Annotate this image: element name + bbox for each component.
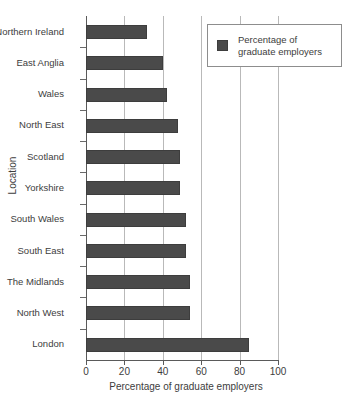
page-bleed-text xyxy=(0,395,354,403)
bar-row xyxy=(86,266,278,297)
category-label: South Wales xyxy=(0,213,64,224)
bar xyxy=(86,213,186,227)
bar xyxy=(86,306,190,320)
x-tick xyxy=(278,360,279,365)
x-tick-label: 20 xyxy=(104,366,144,377)
y-tick xyxy=(80,47,86,48)
bar xyxy=(86,338,249,352)
y-tick xyxy=(80,329,86,330)
y-tick xyxy=(80,110,86,111)
category-label: North West xyxy=(0,307,64,318)
bar-chart-figure: Location 020406080100Northern IrelandEas… xyxy=(0,0,354,403)
bar-row xyxy=(86,204,278,235)
category-label: Scotland xyxy=(0,151,64,162)
category-label: Northern Ireland xyxy=(0,26,64,37)
x-tick xyxy=(163,360,164,365)
x-axis-title: Percentage of graduate employers xyxy=(0,381,354,392)
legend-label: Percentage of graduate employers xyxy=(238,34,322,58)
bar-row xyxy=(86,141,278,172)
x-tick-label: 60 xyxy=(181,366,221,377)
y-tick xyxy=(80,141,86,142)
x-axis-title-text: Percentage of graduate employers xyxy=(109,381,262,392)
y-tick xyxy=(80,204,86,205)
x-tick xyxy=(201,360,202,365)
bar-row xyxy=(86,79,278,110)
bar xyxy=(86,88,167,102)
bar xyxy=(86,25,147,39)
legend-label-line1: Percentage of xyxy=(238,34,322,46)
x-tick xyxy=(124,360,125,365)
y-tick xyxy=(80,266,86,267)
bar xyxy=(86,275,190,289)
y-axis-title: Location xyxy=(7,136,18,216)
y-tick xyxy=(80,172,86,173)
bar xyxy=(86,244,186,258)
x-tick xyxy=(86,360,87,365)
gridline xyxy=(278,16,279,360)
y-tick xyxy=(80,235,86,236)
category-label: Wales xyxy=(0,88,64,99)
x-tick-label: 100 xyxy=(258,366,298,377)
category-label: Yorkshire xyxy=(0,182,64,193)
bar-row xyxy=(86,172,278,203)
bar-row xyxy=(86,329,278,360)
plot-area xyxy=(86,16,278,360)
y-tick xyxy=(80,79,86,80)
category-label: North East xyxy=(0,119,64,130)
category-label: East Anglia xyxy=(0,57,64,68)
legend-label-line2: graduate employers xyxy=(238,46,322,58)
bar-row xyxy=(86,235,278,266)
x-tick-label: 40 xyxy=(143,366,183,377)
x-tick xyxy=(240,360,241,365)
x-tick-label: 80 xyxy=(220,366,260,377)
legend-swatch-percentage-of-graduate-employers xyxy=(217,40,228,51)
x-axis-line xyxy=(86,360,279,361)
x-tick-label: 0 xyxy=(66,366,106,377)
bar-row xyxy=(86,110,278,141)
bar xyxy=(86,119,178,133)
category-label: The Midlands xyxy=(0,276,64,287)
legend: Percentage of graduate employers xyxy=(207,24,342,67)
category-label: London xyxy=(0,338,64,349)
bar xyxy=(86,181,180,195)
category-label: South East xyxy=(0,245,64,256)
bar xyxy=(86,150,180,164)
bar xyxy=(86,56,163,70)
y-tick xyxy=(80,297,86,298)
bar-row xyxy=(86,297,278,328)
